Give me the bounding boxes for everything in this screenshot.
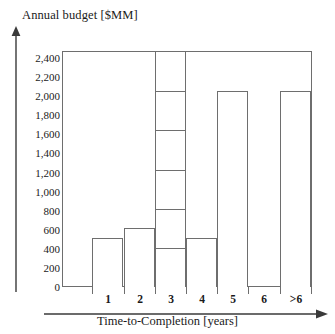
bar-category-3 [155, 51, 186, 287]
y-tick-1200: 1,200 [16, 168, 60, 179]
y-tick-2400: 2,400 [16, 53, 60, 64]
y-tick-200: 200 [16, 263, 60, 274]
y-tick-0: 0 [16, 282, 60, 293]
y-tick-2000: 2,000 [16, 91, 60, 102]
y-tick-1000: 1,000 [16, 187, 60, 198]
bar-segment-divider-400 [156, 248, 185, 249]
y-tick-1800: 1,800 [16, 110, 60, 121]
x-axis-title: Time-to-Completion [years] [0, 314, 335, 329]
y-axis-tick-labels: 2,400 2,200 2,000 1,800 1,600 1,400 1,20… [12, 0, 60, 334]
x-label-2: 2 [137, 293, 143, 305]
y-tick-1600: 1,600 [16, 129, 60, 140]
bar-category-5 [217, 91, 248, 287]
y-tick-2200: 2,200 [16, 72, 60, 83]
bar-category-4 [186, 238, 217, 287]
bar-segment-divider-1600 [156, 130, 185, 131]
budget-vs-time-bar-chart: Annual budget [$MM] 2,400 2,200 2,000 1,… [0, 0, 335, 334]
bar-series [62, 51, 312, 287]
y-tick-800: 800 [16, 206, 60, 217]
x-label-3: 3 [168, 293, 174, 305]
x-label-4: 4 [199, 293, 205, 305]
y-tick-600: 600 [16, 225, 60, 236]
x-label-1: 1 [105, 293, 111, 305]
x-label-6: 6 [261, 293, 267, 305]
bar-category-gt6 [280, 91, 311, 287]
bar-segment-divider-2000 [156, 91, 185, 92]
y-tick-400: 400 [16, 244, 60, 255]
x-label-gt6: >6 [290, 293, 302, 305]
bar-category-2 [124, 228, 155, 287]
bar-segment-divider-800 [156, 209, 185, 210]
bar-category-1 [92, 238, 123, 287]
y-tick-1400: 1,400 [16, 148, 60, 159]
x-label-5: 5 [230, 293, 236, 305]
bar-segment-divider-1200 [156, 170, 185, 171]
